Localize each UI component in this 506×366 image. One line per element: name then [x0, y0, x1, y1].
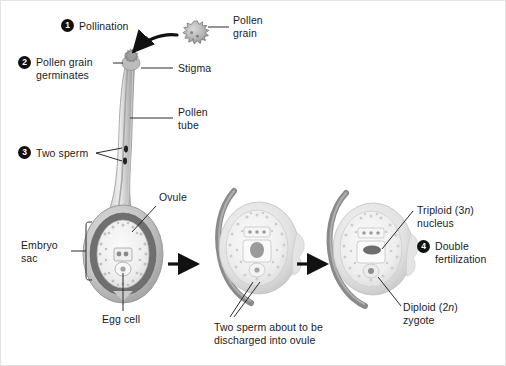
pollination-arrow: [134, 35, 177, 51]
label-embryo-sac: Embryo sac: [21, 239, 58, 265]
label-double-fertilization: Double fertilization: [435, 240, 487, 266]
step-badge-3: 3: [18, 146, 31, 159]
stage-1-group: [83, 49, 163, 303]
stage-3-group: [330, 193, 419, 306]
label-pollination: Pollination: [79, 20, 129, 33]
germinated-pollen-grain-icon: [125, 49, 138, 62]
step-badge-1: 1: [61, 19, 74, 32]
label-pollen-grain-germinates: Pollen grain germinates: [36, 56, 93, 81]
double-fertilization-figure: 1 Pollination Pollen grain 2 Pollen grai…: [0, 0, 506, 366]
label-egg-cell: Egg cell: [102, 313, 140, 326]
label-pollen-grain: Pollen grain: [233, 14, 263, 39]
step-badge-2: 2: [18, 56, 31, 69]
label-two-sperm-discharged: Two sperm about to be discharged into ov…: [214, 321, 323, 347]
style-and-pollen-tube: [105, 59, 135, 229]
triploid-nucleus-shape: [363, 246, 381, 255]
label-triploid-nucleus: Triploid (3n)nucleus: [417, 204, 474, 230]
step-badge-4: 4: [417, 240, 430, 253]
label-ovule: Ovule: [159, 191, 187, 204]
stage-2-group: [218, 191, 304, 303]
label-two-sperm: Two sperm: [36, 147, 88, 160]
label-stigma: Stigma: [178, 62, 211, 75]
pollen-grain-icon: [183, 21, 209, 44]
label-diploid-zygote: Diploid (2n)zygote: [403, 301, 458, 327]
label-pollen-tube: Pollen tube: [178, 106, 208, 131]
